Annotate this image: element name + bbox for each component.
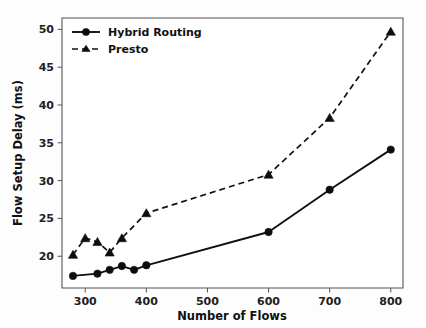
legend-label-hybrid-routing: Hybrid Routing [108, 26, 202, 39]
y-axis-ticks: 20253035404550 [39, 23, 62, 263]
data-point-marker-circle [326, 186, 333, 193]
data-point-marker-circle [118, 262, 125, 269]
line-chart: 300400500600700800 20253035404550 Number… [0, 0, 426, 328]
data-point-marker-circle [265, 228, 272, 235]
y-tick-label: 50 [39, 23, 55, 36]
x-tick-label: 800 [379, 295, 402, 308]
chart-figure: 300400500600700800 20253035404550 Number… [0, 0, 426, 328]
y-tick-label: 35 [39, 137, 54, 150]
legend-marker-circle-icon [82, 28, 89, 35]
x-axis-ticks: 300400500600700800 [74, 288, 403, 308]
y-tick-label: 25 [39, 212, 54, 225]
x-tick-label: 600 [257, 295, 280, 308]
y-tick-label: 45 [39, 61, 54, 74]
x-tick-label: 700 [318, 295, 341, 308]
y-tick-label: 20 [39, 250, 55, 263]
data-point-marker-circle [130, 266, 137, 273]
y-tick-label: 40 [39, 99, 55, 112]
y-axis-title: Flow Setup Delay (ms) [11, 80, 25, 226]
x-tick-label: 400 [135, 295, 158, 308]
x-tick-label: 300 [74, 295, 97, 308]
x-tick-label: 500 [196, 295, 219, 308]
data-point-marker-circle [387, 146, 394, 153]
legend-label-presto: Presto [108, 43, 149, 56]
y-tick-label: 30 [39, 175, 55, 188]
x-axis-title: Number of Flows [177, 309, 287, 323]
data-point-marker-circle [69, 272, 76, 279]
data-point-marker-circle [143, 262, 150, 269]
data-point-marker-circle [94, 270, 101, 277]
data-point-marker-circle [106, 266, 113, 273]
chart-legend: Hybrid Routing Presto [66, 22, 206, 62]
